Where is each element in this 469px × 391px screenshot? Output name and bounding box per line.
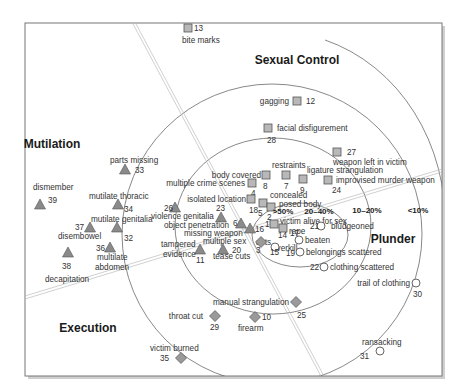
point-label: facial disfigurement — [277, 124, 348, 133]
square-marker-icon — [293, 97, 301, 105]
point-label: beaten — [305, 236, 330, 245]
square-marker-icon — [262, 171, 270, 179]
point-label: mutilate genitalia — [91, 215, 153, 224]
theme-label: Plunder — [371, 232, 416, 246]
point-label: multiple crime scenes — [166, 179, 245, 188]
square-marker-icon — [247, 195, 255, 203]
point-number: 21 — [310, 222, 320, 231]
point-number: 14 — [278, 231, 288, 240]
theme-label: Execution — [59, 321, 116, 335]
ring-percent-label: 10–20% — [352, 206, 381, 215]
circle-marker-icon — [320, 263, 328, 271]
point-label: bite marks — [182, 36, 220, 45]
point-label: improvised murder weapon — [336, 176, 435, 185]
point-label: restraints — [272, 161, 306, 170]
point-number: 15 — [270, 248, 280, 257]
point-number: 36 — [96, 244, 106, 253]
point-label: dismember — [33, 183, 74, 192]
point-number: 30 — [413, 290, 423, 299]
square-marker-icon — [270, 220, 278, 228]
point-number: 6 — [233, 219, 238, 228]
point-label: belongings scattered — [306, 248, 382, 257]
point-number: 11 — [196, 256, 205, 265]
data-point-22: 22clothing scattered — [310, 263, 395, 272]
square-marker-icon — [184, 24, 192, 32]
crime-scene-smallest-space-analysis-plot: 13bite marks12gagging28facial disfigurem… — [0, 0, 469, 391]
ring-percent-label: <10% — [408, 206, 429, 215]
point-number: 7 — [284, 182, 289, 191]
point-number: 39 — [48, 196, 58, 205]
point-label: tampered — [161, 240, 196, 249]
square-marker-icon — [333, 148, 341, 156]
square-marker-icon — [282, 171, 290, 179]
point-number: 8 — [263, 182, 268, 191]
point-label: isolated location — [187, 195, 246, 204]
point-label: ligature strangulation — [307, 166, 383, 175]
point-number: 32 — [124, 234, 134, 243]
point-label: clothing scattered — [330, 263, 395, 272]
point-number: 13 — [194, 24, 204, 33]
point-number: 28 — [267, 136, 277, 145]
point-number: 24 — [332, 186, 342, 195]
point-number: 29 — [210, 323, 220, 332]
point-number: 35 — [160, 354, 170, 363]
point-label: parts missing — [110, 156, 159, 165]
point-label: firearm — [238, 324, 264, 333]
point-label: violence genitalia — [151, 212, 214, 221]
circle-marker-icon — [412, 279, 420, 287]
point-label-line2: evidence — [163, 250, 196, 259]
point-label: bludgeoned — [331, 222, 374, 231]
square-marker-icon — [324, 176, 332, 184]
point-label: gagging — [260, 97, 290, 106]
point-number: 19 — [286, 249, 296, 258]
ring-percent-label: >50% — [273, 207, 294, 216]
point-label: tease cuts — [213, 252, 250, 261]
ring-percent-label: 20–40% — [304, 207, 333, 216]
point-number: 10 — [262, 313, 272, 322]
square-marker-icon — [264, 124, 272, 132]
point-number: 25 — [297, 311, 307, 320]
square-marker-icon — [259, 199, 267, 207]
theme-label: Mutilation — [24, 137, 81, 151]
data-point-21: 21bludgeoned — [310, 222, 374, 231]
point-number: 17 — [290, 229, 300, 238]
point-number: 22 — [310, 263, 320, 272]
point-label-line2: abdomen — [95, 263, 130, 272]
square-marker-icon — [299, 175, 307, 183]
circle-marker-icon — [296, 248, 304, 256]
point-label: decapitation — [45, 275, 90, 284]
point-label: multilate — [97, 253, 128, 262]
point-label: multiple sex — [203, 237, 246, 246]
point-label: ransacking — [362, 338, 402, 347]
square-marker-icon — [248, 179, 256, 187]
point-label: disembowel — [58, 232, 101, 241]
point-number: 34 — [124, 205, 134, 214]
point-number: 37 — [75, 223, 85, 232]
point-number: 1 — [265, 220, 270, 229]
point-number: 3 — [256, 246, 261, 255]
point-number: 12 — [306, 97, 316, 106]
point-label: throat cut — [169, 312, 204, 321]
point-label: trail of clothing — [357, 279, 410, 288]
point-label: manual strangulation — [213, 298, 289, 307]
theme-label: Sexual Control — [255, 53, 340, 67]
point-number: 31 — [360, 352, 370, 361]
point-number: 27 — [347, 148, 357, 157]
point-number: 38 — [62, 262, 72, 271]
data-point-20b: tease cuts — [213, 252, 250, 261]
point-label: victim burned — [150, 344, 199, 353]
point-label: mutilate thoracic — [89, 192, 149, 201]
data-point-15: 15 — [270, 243, 280, 257]
circle-marker-icon — [376, 347, 384, 355]
point-number: 33 — [135, 166, 145, 175]
point-number: 23 — [216, 204, 226, 213]
data-point-12: 12gagging — [260, 97, 316, 106]
point-number: 16 — [255, 225, 265, 234]
point-number: 5 — [258, 209, 263, 218]
point-label: concealed — [270, 191, 308, 200]
